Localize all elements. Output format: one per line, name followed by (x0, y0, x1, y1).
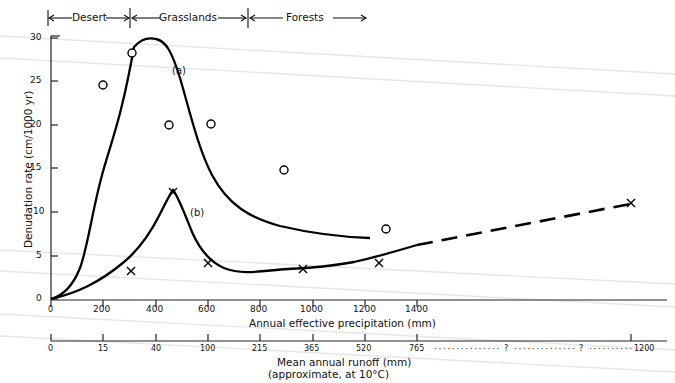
data-point-circle (165, 121, 173, 129)
runoff-tick-label: 15 (98, 345, 108, 353)
y-tick-label: 10 (33, 207, 44, 216)
data-point-circle (280, 166, 288, 174)
data-point-cross (127, 267, 135, 275)
runoff-dotted-connector-3: ·········· (589, 345, 634, 354)
data-point-cross (375, 259, 383, 267)
curve-b-markers (127, 188, 635, 275)
data-point-circle (207, 120, 215, 128)
curve-b-dashed-extension (417, 204, 630, 245)
runoff-dotted-connector-1: ··············· (434, 345, 501, 354)
y-tick-label: 30 (30, 33, 41, 42)
x-tick-label: 1000 (300, 305, 323, 314)
runoff-tick-label: 520 (356, 345, 371, 353)
runoff-tick-label: 0 (48, 345, 53, 353)
curve-b-line (51, 190, 417, 299)
x-tick-label: 800 (250, 305, 267, 314)
x-tick-label: 400 (146, 305, 163, 314)
curve-label-b: (b) (190, 208, 204, 218)
zone-label-grasslands: Grasslands (159, 12, 217, 23)
curve-a-markers (99, 49, 390, 233)
runoff-tick-label: 365 (304, 345, 319, 353)
x-axis-runoff (51, 334, 667, 341)
runoff-tick-label: 765 (409, 345, 424, 353)
y-tick-label: 5 (36, 251, 42, 260)
x-tick-label: 1400 (405, 305, 428, 314)
x-tick-label: 200 (93, 305, 110, 314)
zone-label-desert: Desert (72, 12, 107, 23)
denudation-rate-chart: Desert Grasslands Forests 30 25 20 15 10… (0, 0, 675, 383)
zone-label-forests: Forests (286, 12, 324, 23)
x-tick-label: 0 (48, 306, 53, 314)
x-tick-label: 600 (198, 305, 215, 314)
data-point-circle (99, 81, 107, 89)
runoff-tick-label: 1200 (634, 345, 654, 353)
curve-label-a: (a) (172, 66, 186, 76)
y-tick-label: 25 (30, 76, 41, 85)
runoff-tick-label: ? (579, 345, 583, 353)
data-point-circle (128, 49, 136, 57)
x-axis-subtitle-runoff: (approximate, at 10°C) (268, 369, 389, 380)
runoff-tick-label: 215 (252, 345, 267, 353)
runoff-tick-label: ? (504, 345, 508, 353)
x-axis-title-precipitation: Annual effective precipitation (mm) (249, 318, 436, 329)
y-axis (51, 36, 60, 300)
y-axis-title: Denudation rate (cm/1000 yr) (22, 91, 34, 248)
y-tick-label: 0 (36, 294, 42, 303)
runoff-tick-label: 100 (200, 345, 215, 353)
data-point-cross (627, 199, 635, 207)
x-tick-label: 1200 (353, 305, 376, 314)
x-axis-title-runoff: Mean annual runoff (mm) (277, 357, 411, 368)
runoff-dotted-connector-2: ·············· (514, 345, 576, 354)
data-point-circle (382, 225, 390, 233)
runoff-tick-label: 40 (151, 345, 161, 353)
